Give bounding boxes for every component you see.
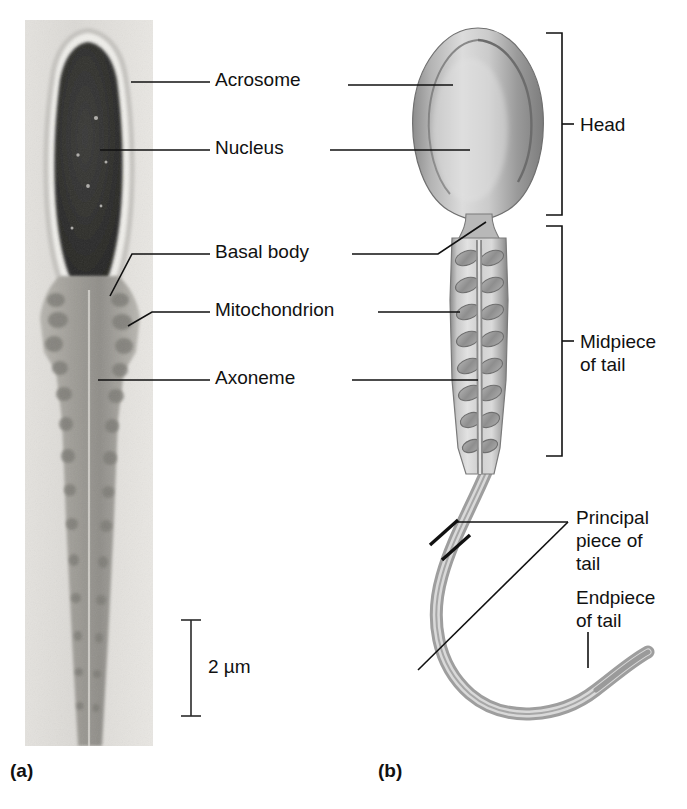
micrograph-plate xyxy=(25,20,153,746)
label-midpiece-line1: Midpiece xyxy=(580,330,656,353)
label-axoneme: Axoneme xyxy=(215,366,295,389)
label-principal-line1: Principal xyxy=(576,506,649,529)
label-endpiece-line1: Endpiece xyxy=(576,586,655,609)
label-basal-body: Basal body xyxy=(215,240,309,263)
bracket-midpiece xyxy=(546,226,562,456)
label-acrosome: Acrosome xyxy=(215,68,301,91)
label-mitochondrion: Mitochondrion xyxy=(215,298,334,321)
label-midpiece-line2: of tail xyxy=(580,353,625,376)
sperm-structure-figure: Acrosome Nucleus Basal body Mitochondrio… xyxy=(0,0,687,809)
panel-label-a: (a) xyxy=(10,760,33,782)
label-head: Head xyxy=(580,113,625,136)
scale-bar xyxy=(181,620,201,716)
label-principal-line3: tail xyxy=(576,552,600,575)
tail-endpiece xyxy=(596,652,648,690)
panel-label-b: (b) xyxy=(378,760,402,782)
head-highlight xyxy=(432,58,508,202)
axoneme-core xyxy=(479,240,480,474)
label-nucleus: Nucleus xyxy=(215,136,284,159)
label-endpiece-line2: of tail xyxy=(576,609,621,632)
label-principal-line2: piece of xyxy=(576,529,643,552)
bracket-head xyxy=(546,33,562,215)
scale-bar-label: 2 µm xyxy=(208,656,251,678)
